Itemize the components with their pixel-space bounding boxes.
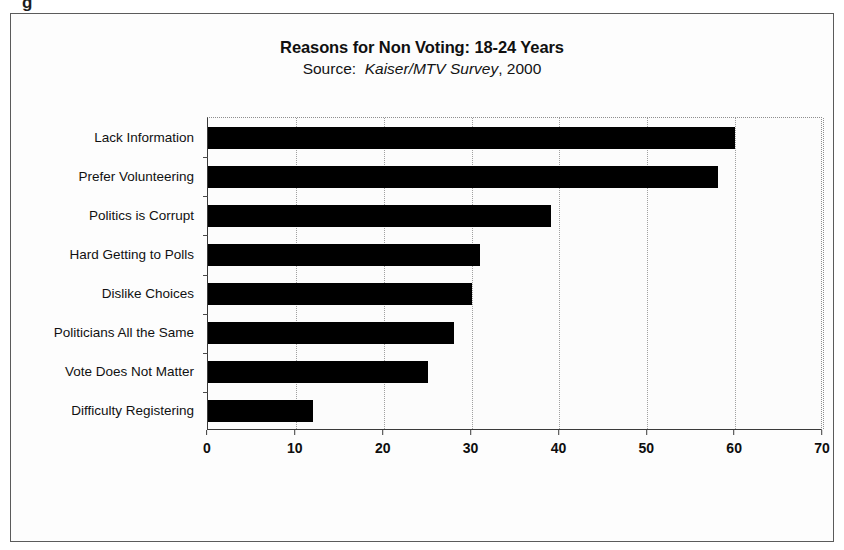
x-axis-tick-mark: [558, 430, 559, 435]
y-axis-label: Politics is Corrupt: [89, 207, 194, 222]
y-axis-label: Politicians All the Same: [54, 325, 194, 340]
x-axis-tick-label: 70: [814, 440, 830, 456]
y-axis-tick-mark: [203, 196, 208, 197]
x-axis-tick: 0: [203, 430, 211, 456]
bar[interactable]: [208, 127, 735, 149]
x-axis-ticks: 010203040506070: [207, 430, 822, 464]
y-axis-label: Difficulty Registering: [71, 403, 194, 418]
bar[interactable]: [208, 322, 454, 344]
x-axis-tick: 50: [638, 430, 654, 456]
y-axis-tick-mark: [203, 314, 208, 315]
y-axis-label: Prefer Volunteering: [78, 168, 194, 183]
plot-area: [207, 117, 822, 430]
x-axis-tick-mark: [470, 430, 471, 435]
bar[interactable]: [208, 283, 472, 305]
x-axis-tick: 40: [551, 430, 567, 456]
x-axis-tick-label: 40: [551, 440, 567, 456]
y-axis-label: Dislike Choices: [102, 286, 194, 301]
chart-title: Reasons for Non Voting: 18-24 Years: [10, 38, 834, 56]
subtitle-source-label: Source:: [303, 60, 356, 77]
x-axis-tick-mark: [646, 430, 647, 435]
y-axis-category-labels: Lack InformationPrefer VolunteeringPolit…: [10, 117, 202, 430]
y-axis-label: Lack Information: [94, 129, 194, 144]
bar[interactable]: [208, 205, 551, 227]
bar-row[interactable]: [208, 400, 821, 422]
chart-subtitle: Source: Kaiser/MTV Survey, 2000: [10, 60, 834, 78]
x-axis-tick-mark: [734, 430, 735, 435]
y-axis-label: Vote Does Not Matter: [65, 364, 194, 379]
gridline-70: [823, 118, 824, 429]
bar[interactable]: [208, 400, 313, 422]
bar-row[interactable]: [208, 283, 821, 305]
bar-row[interactable]: [208, 322, 821, 344]
bars-layer: [208, 118, 821, 429]
bar-row[interactable]: [208, 361, 821, 383]
x-axis-tick-label: 20: [375, 440, 391, 456]
bar[interactable]: [208, 166, 718, 188]
x-axis-tick-mark: [821, 430, 822, 435]
x-axis-tick-label: 30: [463, 440, 479, 456]
x-axis-tick-mark: [206, 430, 207, 435]
x-axis-tick: 20: [375, 430, 391, 456]
x-axis-tick-mark: [382, 430, 383, 435]
scan-artifact-glyph: g: [22, 0, 32, 11]
bar[interactable]: [208, 244, 480, 266]
bar-row[interactable]: [208, 127, 821, 149]
chart-title-block: Reasons for Non Voting: 18-24 Years Sour…: [10, 38, 834, 78]
y-axis-tick-mark: [203, 392, 208, 393]
subtitle-source-name: Kaiser/MTV Survey: [365, 60, 499, 77]
bar-row[interactable]: [208, 166, 821, 188]
x-axis-tick-label: 60: [726, 440, 742, 456]
bar-row[interactable]: [208, 205, 821, 227]
y-axis-label: Hard Getting to Polls: [69, 246, 194, 261]
y-axis-tick-mark: [203, 275, 208, 276]
x-axis-tick-label: 50: [638, 440, 654, 456]
x-axis-tick-label: 0: [203, 440, 211, 456]
subtitle-source-year: , 2000: [498, 60, 541, 77]
x-axis-tick: 10: [287, 430, 303, 456]
x-axis-tick: 30: [463, 430, 479, 456]
x-axis-tick: 70: [814, 430, 830, 456]
x-axis-tick-mark: [294, 430, 295, 435]
y-axis-tick-mark: [203, 235, 208, 236]
bar-row[interactable]: [208, 244, 821, 266]
y-axis-tick-mark: [203, 157, 208, 158]
x-axis-tick: 60: [726, 430, 742, 456]
y-axis-tick-mark: [203, 353, 208, 354]
x-axis-tick-label: 10: [287, 440, 303, 456]
bar[interactable]: [208, 361, 428, 383]
